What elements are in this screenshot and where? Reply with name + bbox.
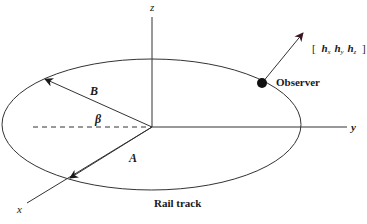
x-axis-label: x bbox=[16, 203, 22, 215]
vector-a-arrow bbox=[70, 127, 152, 178]
angle-beta-label: β bbox=[94, 112, 102, 126]
rail-track-diagram: z y x B β A Observer [ hx hy hz ] Rail t… bbox=[0, 0, 367, 224]
observer-label: Observer bbox=[276, 76, 320, 88]
y-axis-label: y bbox=[349, 121, 356, 133]
rail-track-label: Rail track bbox=[154, 197, 202, 209]
z-axis-label: z bbox=[149, 1, 155, 13]
heading-vector-label: [ hx hy hz ] bbox=[312, 42, 366, 56]
vector-a-label: A bbox=[128, 151, 137, 165]
vector-b-label: B bbox=[89, 84, 98, 98]
observer-marker bbox=[257, 78, 267, 88]
